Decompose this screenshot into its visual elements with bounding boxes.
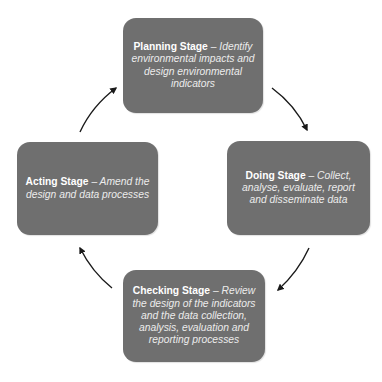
stage-separator: – [306, 170, 317, 181]
stage-planning: Planning Stage – Identify environmental … [123, 18, 263, 113]
stage-name: Doing Stage [246, 170, 306, 181]
stage-separator: – [210, 285, 221, 296]
arrow-doing-to-checking-icon [278, 248, 309, 290]
stage-name: Planning Stage [133, 41, 207, 52]
stage-name: Checking Stage [133, 285, 210, 296]
stage-name: Acting Stage [26, 176, 89, 187]
stage-checking: Checking Stage – Review the design of th… [123, 270, 265, 362]
stage-acting: Acting Stage – Amend the design and data… [17, 142, 158, 235]
arrow-planning-to-doing-icon [272, 88, 307, 130]
stage-doing: Doing Stage – Collect, analyse, evaluate… [227, 141, 370, 235]
arrow-acting-to-planning-icon [80, 88, 116, 132]
arrow-checking-to-acting-icon [80, 248, 112, 288]
stage-separator: – [208, 41, 219, 52]
stage-separator: – [89, 176, 100, 187]
